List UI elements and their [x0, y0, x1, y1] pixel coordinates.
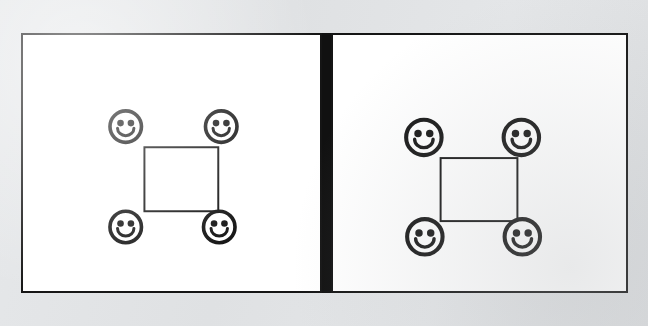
face-eye-left: [213, 120, 220, 127]
smiley-face-icon: [110, 111, 142, 143]
face-outline: [505, 219, 540, 254]
face-eye-right: [223, 120, 230, 127]
smiley-face-icon: [505, 219, 540, 254]
face-eye-right: [426, 130, 433, 137]
face-eye-left: [512, 130, 519, 137]
face-outline: [407, 219, 442, 254]
right-panel-figure: [333, 35, 626, 291]
center-square: [144, 147, 218, 211]
center-square: [441, 158, 518, 221]
smiley-face-icon: [204, 211, 236, 243]
smiley-face-icon: [407, 219, 442, 254]
face-eye-left: [117, 220, 124, 227]
face-eye-left: [415, 229, 422, 236]
face-outline: [504, 120, 539, 155]
right-panel-content: [333, 35, 626, 291]
face-eye-right: [128, 220, 135, 227]
face-eye-right: [524, 229, 531, 236]
face-eye-left: [211, 220, 218, 227]
left-panel-content: [23, 35, 320, 291]
face-outline: [204, 211, 236, 243]
face-eye-left: [414, 130, 421, 137]
smiley-face-icon: [406, 120, 441, 155]
smiley-face-icon: [504, 120, 539, 155]
smiley-face-icon: [110, 211, 142, 243]
center-divider: [322, 33, 331, 293]
face-outline: [205, 111, 237, 143]
face-outline: [110, 111, 142, 143]
face-eye-right: [221, 220, 228, 227]
face-eye-right: [523, 130, 530, 137]
face-eye-left: [513, 229, 520, 236]
face-eye-right: [128, 120, 135, 127]
right-panel: [331, 33, 628, 293]
left-panel-figure: [23, 35, 320, 291]
face-eye-right: [427, 229, 434, 236]
diagram-canvas: [0, 0, 648, 326]
face-eye-left: [117, 120, 124, 127]
left-panel: [21, 33, 322, 293]
face-outline: [110, 211, 142, 243]
smiley-face-icon: [205, 111, 237, 143]
face-outline: [406, 120, 441, 155]
